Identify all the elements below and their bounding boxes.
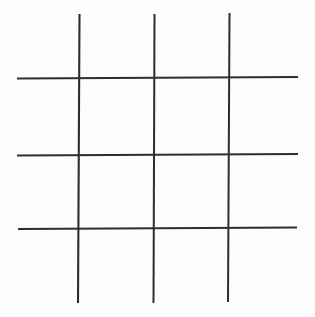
grid-cell-middle-left[interactable]: [79, 155, 154, 229]
grid-cell-middle-center[interactable]: [154, 155, 229, 229]
grid-cells-group: [79, 78, 229, 229]
grid-cell-top-left[interactable]: [79, 78, 154, 155]
hash-grid-figure: [0, 0, 315, 317]
grid-cell-top-center[interactable]: [154, 78, 229, 155]
figure-canvas: [0, 0, 315, 317]
